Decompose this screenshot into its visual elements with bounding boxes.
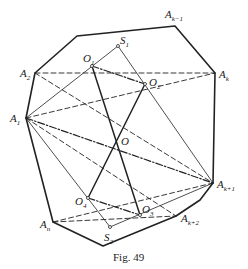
label-a-2: A2 [19, 67, 31, 82]
point-o2 [144, 83, 147, 86]
label-s2: S2 [104, 231, 114, 246]
label-a-1: A1 [9, 112, 20, 127]
label-o: O [121, 135, 129, 147]
label-o1: O1 [83, 52, 94, 67]
label-o3: O3 [142, 203, 154, 218]
label-a-k-1: Ak−1 [164, 8, 183, 23]
label-a-k-plus-1: Ak+1 [216, 178, 235, 193]
label-o2: O2 [149, 76, 161, 91]
dashdot-lines [26, 66, 213, 215]
label-a-k-plus-2: Ak+2 [180, 212, 200, 227]
label-s1: S1 [120, 34, 129, 49]
geometry-figure: Ak−1 Ak Ak+1 Ak+2 An A1 A2 O O1 O2 O3 O4… [0, 0, 248, 269]
point-s2 [109, 226, 112, 229]
thick-lines [88, 66, 145, 215]
figure-caption: Fig. 49 [113, 251, 145, 263]
label-a-n: An [39, 218, 51, 233]
label-o4: O4 [75, 195, 87, 210]
point-o4 [87, 197, 90, 200]
label-a-k: Ak [218, 68, 230, 83]
